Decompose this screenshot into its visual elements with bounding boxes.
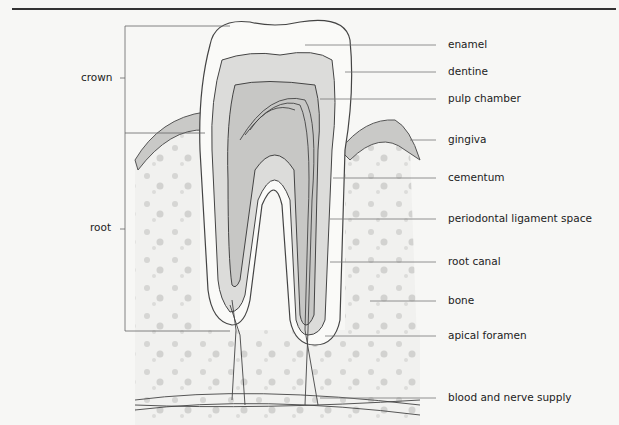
label-periodontal-ligament-space: periodontal ligament space	[448, 212, 592, 224]
label-enamel: enamel	[448, 38, 487, 50]
label-root-canal: root canal	[448, 255, 501, 267]
label-cementum: cementum	[448, 171, 505, 183]
label-blood-and-nerve-supply: blood and nerve supply	[448, 391, 572, 403]
label-bone: bone	[448, 294, 474, 306]
label-gingiva: gingiva	[448, 133, 486, 145]
label-pulp-chamber: pulp chamber	[448, 92, 521, 104]
label-root: root	[90, 221, 111, 233]
label-dentine: dentine	[448, 65, 488, 77]
label-crown: crown	[81, 71, 113, 83]
label-apical-foramen: apical foramen	[448, 329, 527, 341]
